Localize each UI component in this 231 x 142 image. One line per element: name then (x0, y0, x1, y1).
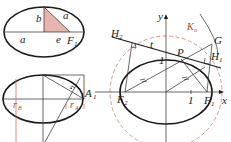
line-F1-P (181, 59, 207, 92)
label-b: b (36, 12, 42, 24)
equal-ticks-right (182, 77, 189, 80)
label-one-x: 1 (188, 94, 194, 106)
right-angle-dot-2 (71, 88, 72, 89)
figure-ellipse-abe: b a a e F 1 (4, 7, 84, 57)
label-rB: r (13, 99, 17, 110)
label-F1-sub: 1 (74, 40, 78, 48)
label-a-top: a (63, 9, 69, 21)
diagram-canvas: b a a e F 1 r B r A A 1 (0, 0, 231, 142)
label-x: x (221, 94, 227, 106)
label-H2-sub: 2 (119, 33, 123, 41)
label-rA-sub: A (74, 105, 79, 111)
label-F2-sub: 2 (124, 99, 128, 107)
figure-ellipse-radii: r B r A A 1 (2, 75, 97, 142)
label-F1-right-sub: 1 (211, 100, 215, 108)
label-F1: F (66, 34, 74, 46)
label-F1-right: F (203, 94, 211, 106)
label-F2: F (116, 93, 124, 105)
label-P: P (176, 46, 184, 58)
figure-tangent-construction: y x K o G H 2 H 1 t P F 2 F 1 1 1 (95, 10, 227, 142)
label-A1: A (84, 87, 92, 99)
label-H1-sub: 1 (219, 56, 223, 64)
y-axis-arrow-icon (164, 14, 168, 19)
label-rA: r (70, 99, 74, 110)
label-e: e (56, 33, 61, 45)
label-y: y (157, 10, 163, 22)
label-one-y: 1 (159, 54, 165, 66)
label-a-bottom: a (20, 33, 26, 45)
label-G: G (214, 34, 222, 46)
label-K0-sub: o (194, 27, 197, 33)
right-angle-H1 (204, 58, 209, 64)
label-A1-sub: 1 (93, 93, 97, 101)
line-F2-G (125, 44, 212, 92)
label-rB-sub: B (18, 105, 22, 111)
